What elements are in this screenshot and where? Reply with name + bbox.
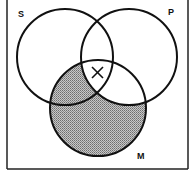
- label-s: S: [18, 9, 24, 19]
- venn-diagram: S P M: [0, 0, 190, 171]
- label-p: P: [168, 7, 174, 17]
- label-m: M: [137, 151, 145, 161]
